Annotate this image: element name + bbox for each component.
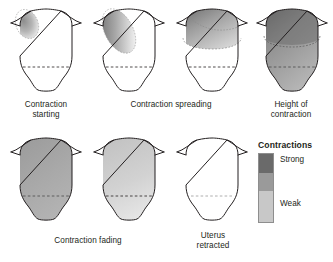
caption-height-of-contraction: Height of contraction <box>248 100 333 119</box>
legend-title: Contractions <box>258 140 333 150</box>
left-cornu <box>177 23 186 26</box>
uterus-body-fill-shaded <box>20 138 72 220</box>
legend-labels: Strong Weak <box>280 153 333 223</box>
uterus-diagram-7 <box>172 133 252 225</box>
right-cornu <box>238 152 247 155</box>
contraction-shading <box>183 4 241 49</box>
caption-uterus-retracted: Uterus retracted <box>170 231 256 250</box>
legend-segment-strong <box>259 154 273 173</box>
legend-segment-medium <box>259 173 273 190</box>
uterus-contraction-figure: Contraction starting Contraction spreadi… <box>0 0 333 262</box>
uterus-body-fill-shaded <box>103 138 155 220</box>
uterus-diagram-1 <box>6 4 86 96</box>
right-cornu <box>318 23 327 26</box>
legend-segment-weak <box>259 191 273 222</box>
contraction-shading <box>262 0 322 45</box>
uterus-diagram-4 <box>252 4 332 96</box>
left-cornu <box>94 152 103 155</box>
panel-contraction-starting <box>6 4 86 96</box>
right-cornu <box>72 23 81 26</box>
legend-body: Strong Weak <box>258 153 333 223</box>
left-cornu <box>257 23 266 26</box>
left-cornu <box>177 152 186 155</box>
panel-uterus-retracted <box>172 133 252 225</box>
caption-contraction-starting: Contraction starting <box>2 100 90 119</box>
legend-gradient-bar <box>258 153 274 223</box>
panel-height-of-contraction <box>252 4 332 96</box>
uterus-diagram-5 <box>6 133 86 225</box>
right-cornu <box>155 23 164 26</box>
uterus-diagram-2 <box>89 4 169 96</box>
right-cornu <box>155 152 164 155</box>
caption-contraction-spreading: Contraction spreading <box>88 100 254 110</box>
panel-contraction-fading-weak <box>89 133 169 225</box>
uterus-diagram-3 <box>172 4 252 96</box>
left-cornu <box>11 152 20 155</box>
left-cornu <box>94 23 103 26</box>
panel-contraction-spreading-early <box>89 4 169 96</box>
right-cornu <box>238 23 247 26</box>
uterus-body-fill <box>186 138 238 220</box>
legend-label-weak: Weak <box>280 199 301 209</box>
panel-contraction-spreading-full-fundus <box>172 4 252 96</box>
legend: Contractions Strong Weak <box>258 140 333 223</box>
right-cornu <box>72 152 81 155</box>
caption-contraction-fading: Contraction fading <box>4 236 172 246</box>
legend-label-strong: Strong <box>280 155 304 165</box>
uterus-diagram-6 <box>89 133 169 225</box>
panel-contraction-fading-medium <box>6 133 86 225</box>
